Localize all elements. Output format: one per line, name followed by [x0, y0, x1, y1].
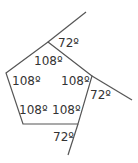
- pentagon-diagram: 72º 72º 72º 108º 108º 108º 108º 108º: [0, 0, 138, 163]
- interior-angle-right: 108º: [61, 74, 90, 88]
- interior-angle-left: 108º: [12, 74, 41, 88]
- exterior-angle-right: 72º: [90, 88, 111, 102]
- interior-angle-bottom-right: 108º: [52, 103, 81, 117]
- interior-angle-top: 108º: [34, 54, 63, 68]
- exterior-angle-top: 72º: [58, 36, 79, 50]
- interior-angle-bottom-left: 108º: [19, 103, 48, 117]
- exterior-angle-bottom: 72º: [53, 130, 74, 144]
